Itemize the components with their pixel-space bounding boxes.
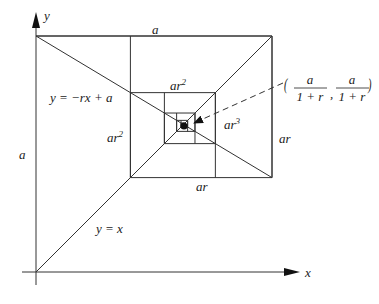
x-axis-arrow-icon [284,268,300,276]
label-right-ar: ar [279,131,292,146]
svg-text:,: , [330,86,333,101]
label-inner-right: ar3 [224,116,241,132]
spiral-diagram: y x a a ar ar ar2 ar2 ar3 y = −rx + a y … [0,0,379,304]
x-axis-label: x [304,265,311,280]
label-decreasing-line: y = −rx + a [48,90,113,105]
label-left-a: a [19,147,26,162]
label-inner-left: ar2 [107,129,124,145]
label-diagonal-line: y = x [94,221,123,236]
label-inner-top: ar2 [170,77,187,93]
svg-text:1 + r: 1 + r [297,89,325,104]
y-axis-label: y [42,8,50,23]
spiral-rectangles [36,36,272,272]
svg-text:(: ( [284,74,288,94]
decreasing-line [36,36,272,178]
svg-text:): ) [367,74,371,94]
y-axis-arrow-icon [32,12,40,28]
svg-text:1 + r: 1 + r [339,89,367,104]
label-bottom-ar: ar [196,179,209,194]
limit-point-label: ( a 1 + r , a 1 + r ) [284,72,372,104]
svg-text:a: a [349,72,356,87]
svg-text:a: a [307,72,314,87]
diagonal-line [36,36,272,272]
limit-point [181,123,188,130]
label-top-a: a [152,22,159,37]
